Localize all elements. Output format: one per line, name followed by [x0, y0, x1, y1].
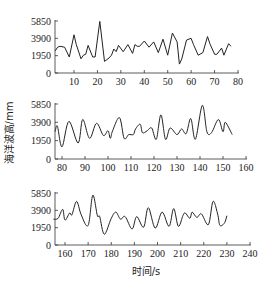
- x-tick-label: 90: [80, 162, 90, 173]
- x-tick-label: 210: [173, 248, 188, 259]
- y-tick-label: 1950: [31, 50, 51, 61]
- y-tick-label: 1950: [31, 135, 51, 146]
- axes: [55, 103, 247, 159]
- x-tick-label: 240: [243, 248, 258, 259]
- x-tick-label: 220: [196, 248, 211, 259]
- y-tick-label: 3900: [31, 117, 51, 128]
- wave-height-line: [53, 195, 227, 234]
- y-tick-label: 5850: [31, 188, 51, 199]
- x-tick-label: 160: [239, 162, 254, 173]
- x-tick-label: 10: [69, 76, 79, 87]
- x-tick-label: 140: [193, 162, 208, 173]
- x-tick-label: 160: [58, 248, 73, 259]
- axes: [55, 192, 251, 245]
- y-tick-label: 1950: [31, 222, 51, 233]
- y-tick-label: 5850: [31, 16, 51, 27]
- x-tick-label: 180: [104, 248, 119, 259]
- wave-height-chart: 0195039005850102030405060708001950390058…: [0, 0, 272, 292]
- x-tick-label: 40: [139, 76, 149, 87]
- x-tick-label: 70: [210, 76, 220, 87]
- x-tick-label: 100: [101, 162, 116, 173]
- x-tick-label: 30: [116, 76, 126, 87]
- wave-height-line: [55, 21, 231, 64]
- x-tick-label: 130: [170, 162, 185, 173]
- x-tick-label: 120: [147, 162, 162, 173]
- x-tick-label: 80: [233, 76, 243, 87]
- y-tick-label: 5850: [31, 99, 51, 110]
- x-tick-label: 60: [186, 76, 196, 87]
- y-tick-label: 0: [46, 154, 51, 165]
- x-tick-label: 20: [92, 76, 102, 87]
- x-tick-label: 110: [124, 162, 139, 173]
- x-tick-label: 190: [127, 248, 142, 259]
- x-tick-label: 230: [219, 248, 234, 259]
- panel-1: 01950390058501020304050607080: [31, 16, 243, 88]
- y-tick-label: 0: [46, 240, 51, 251]
- x-axis-title: 时间/s: [132, 265, 161, 277]
- panel-2: 01950390058508090100110120130140150160: [31, 99, 254, 174]
- x-tick-label: 200: [150, 248, 165, 259]
- x-tick-label: 170: [81, 248, 96, 259]
- x-tick-label: 50: [163, 76, 173, 87]
- panel-3: 0195039005850160170180190200210220230240: [31, 188, 258, 260]
- x-tick-label: 150: [216, 162, 231, 173]
- wave-height-line: [55, 105, 232, 146]
- y-tick-label: 3900: [31, 205, 51, 216]
- chart-panels: 0195039005850102030405060708001950390058…: [31, 16, 258, 260]
- x-tick-label: 80: [57, 162, 67, 173]
- y-tick-label: 0: [46, 68, 51, 79]
- y-tick-label: 3900: [31, 33, 51, 44]
- y-axis-title: 海洋波高/mm: [3, 102, 15, 165]
